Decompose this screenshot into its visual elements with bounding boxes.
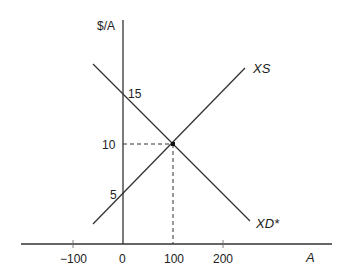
xs-label: XS — [252, 61, 271, 76]
x-tick-label-100: 100 — [164, 252, 184, 266]
xd-label: XD* — [255, 216, 280, 231]
y-tick-label-5: 5 — [110, 188, 117, 202]
y-tick-label-15: 15 — [128, 87, 142, 101]
x-tick-label-0: 0 — [119, 252, 126, 266]
equilibrium-point — [171, 142, 175, 146]
y-tick-label-10: 10 — [102, 138, 116, 152]
x-tick-label-200: 200 — [213, 252, 233, 266]
x-tick-label-m100: −100 — [60, 252, 87, 266]
x-axis-label: A — [305, 250, 315, 265]
supply-demand-chart: $/A A XS XD* 15 10 5 −100 0 100 200 — [0, 0, 349, 278]
y-axis-label: $/A — [97, 19, 115, 33]
